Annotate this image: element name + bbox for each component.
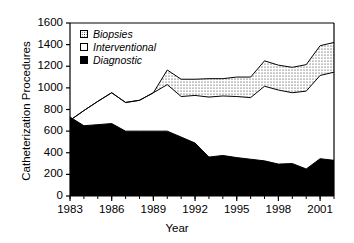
x-axis-ticks <box>70 196 334 201</box>
legend-swatch-solid <box>80 56 88 64</box>
legend-label: Biopsies <box>93 29 133 40</box>
y-axis-tick-label: 1600 <box>19 16 63 28</box>
legend-swatch-stipple <box>80 30 88 38</box>
legend-item-diagnostic: Diagnostic <box>80 55 142 66</box>
legend-label: Interventional <box>93 42 156 53</box>
legend-swatch-white <box>80 43 88 51</box>
x-axis-tick-label: 1983 <box>47 203 93 215</box>
x-axis-tick-label: 2001 <box>297 203 343 215</box>
x-axis-tick-label: 1992 <box>172 203 218 215</box>
y-axis-title: Catheterization Procedures <box>20 31 32 191</box>
x-axis-tick-label: 1995 <box>214 203 260 215</box>
legend-item-interventional: Interventional <box>80 42 156 53</box>
x-axis-title: Year <box>0 222 354 234</box>
legend-label: Diagnostic <box>93 55 142 66</box>
x-axis-tick-label: 1998 <box>255 203 301 215</box>
x-axis-tick-label: 1989 <box>130 203 176 215</box>
x-axis-tick-label: 1986 <box>89 203 135 215</box>
legend-item-biopsies: Biopsies <box>80 29 133 40</box>
chart-figure: 02004006008001000120014001600 1983198619… <box>0 0 354 243</box>
